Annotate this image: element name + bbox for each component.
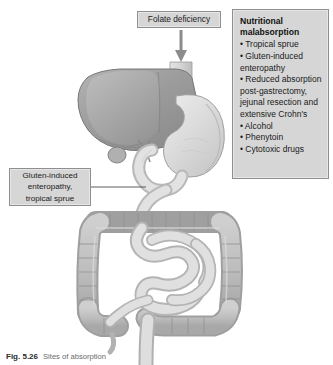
list-item: • Reduced absorption	[240, 74, 322, 86]
list-item: extensive Crohn's	[240, 109, 322, 121]
list-item: • Tropical sprue	[240, 39, 322, 51]
folate-deficiency-label: Folate deficiency	[148, 15, 210, 23]
list-item: post-gastrectomy,	[240, 86, 322, 98]
small-intestine	[110, 228, 210, 322]
nutritional-malabsorption-panel: Nutritional malabsorption • Tropical spr…	[232, 9, 329, 179]
figure-number: Fig. 5.26	[6, 352, 38, 361]
list-item: jejunal resection and	[240, 97, 322, 109]
list-item: • Alcohol	[240, 121, 322, 133]
gluten-enteropathy-callout: Gluten-induced enteropathy, tropical spr…	[9, 168, 91, 206]
gluten-callout-line-3: tropical sprue	[26, 193, 75, 205]
folate-arrow	[175, 30, 187, 62]
malabsorption-cause-list: • Tropical sprue • Gluten-induced entero…	[240, 39, 322, 155]
list-item: • Gluten-induced	[240, 51, 322, 63]
panel-title-line-2: malabsorption	[240, 27, 322, 38]
figure-caption: Fig. 5.26 Sites of absorption	[6, 352, 106, 365]
list-item: • Cytotoxic drugs	[240, 144, 322, 156]
folate-deficiency-callout: Folate deficiency	[137, 11, 221, 28]
figure-container: Folate deficiency Gluten-induced enterop…	[0, 0, 333, 365]
appendix	[110, 334, 114, 352]
gluten-callout-line-1: Gluten-induced	[23, 170, 78, 182]
list-item: • Phenytoin	[240, 132, 322, 144]
panel-title-line-1: Nutritional	[240, 16, 322, 27]
figure-caption-text: Sites of absorption	[43, 352, 106, 361]
gallbladder	[108, 147, 126, 163]
list-item: enteropathy	[240, 63, 322, 75]
gluten-callout-line-2: enteropathy,	[28, 181, 72, 193]
rectum	[146, 320, 148, 365]
